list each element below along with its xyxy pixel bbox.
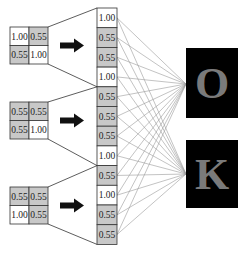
matrix-cell-value: 0.55 xyxy=(11,192,28,202)
connection-line xyxy=(117,84,186,215)
right-arrow-icon xyxy=(60,39,84,53)
flatten-diagram: 1.000.550.551.000.550.550.551.000.550.55… xyxy=(0,0,242,257)
matrix-cell-value: 0.55 xyxy=(30,32,47,42)
connection-line xyxy=(117,174,186,235)
connection-line xyxy=(117,38,186,84)
vector-cell-value: 0.55 xyxy=(99,131,116,141)
connection-line xyxy=(117,18,186,174)
matrix-cell-value: 0.55 xyxy=(30,210,47,220)
output-letter: O xyxy=(195,59,229,108)
connection-line xyxy=(117,57,186,174)
connection-line xyxy=(117,38,186,174)
flattened-vector: 1.000.550.551.000.550.550.551.000.551.00… xyxy=(97,8,117,244)
right-arrow-icon xyxy=(60,199,84,213)
vector-cell-value: 0.55 xyxy=(99,210,116,220)
funnel-line-bottom xyxy=(48,64,97,87)
connection-line xyxy=(117,136,186,174)
vector-cell-value: 0.55 xyxy=(99,33,116,43)
funnel-line-top xyxy=(48,8,97,27)
vector-cell-value: 0.55 xyxy=(99,230,116,240)
connection-line xyxy=(117,84,186,195)
vector-cell-value: 0.55 xyxy=(99,171,116,181)
funnel-line-top xyxy=(48,166,97,187)
connection-line xyxy=(117,174,186,175)
connection-line xyxy=(117,97,186,174)
connection-line xyxy=(117,77,186,84)
matrix-cell-value: 1.00 xyxy=(11,32,28,42)
matrix-cell-value: 0.55 xyxy=(30,192,47,202)
connection-line xyxy=(117,18,186,84)
output-node-k: K xyxy=(186,140,238,208)
output-nodes: OK xyxy=(186,48,238,208)
arrow-icons xyxy=(60,39,84,213)
vector-cell-value: 1.00 xyxy=(99,151,116,161)
right-arrow-icon xyxy=(60,114,84,128)
matrix-cell-value: 0.55 xyxy=(11,107,28,117)
vector-cell-value: 0.55 xyxy=(99,112,116,122)
matrix-cell-value: 0.55 xyxy=(30,107,47,117)
connection-line xyxy=(117,156,186,174)
funnel-line-bottom xyxy=(48,224,97,244)
input-matrix-2: 0.550.550.551.00 xyxy=(10,102,48,139)
matrix-cell-value: 1.00 xyxy=(30,50,47,60)
vector-cell-value: 0.55 xyxy=(99,92,116,102)
connection-line xyxy=(117,84,186,175)
output-node-o: O xyxy=(186,48,238,118)
output-letter: K xyxy=(195,150,229,199)
connection-line xyxy=(117,174,186,215)
fully-connected-lines xyxy=(117,18,186,235)
connection-line xyxy=(117,174,186,195)
vector-cell-value: 1.00 xyxy=(99,190,116,200)
funnel-line-top xyxy=(48,87,97,102)
funnel-line-bottom xyxy=(48,139,97,166)
connection-line xyxy=(117,57,186,84)
vector-cell-value: 1.00 xyxy=(99,72,116,82)
matrix-cell-value: 0.55 xyxy=(11,125,28,135)
matrix-cell-value: 0.55 xyxy=(11,50,28,60)
input-matrices: 1.000.550.551.000.550.550.551.000.550.55… xyxy=(10,27,48,224)
vector-cell-value: 1.00 xyxy=(99,13,116,23)
input-matrix-3: 0.550.551.000.55 xyxy=(10,187,48,224)
input-matrix-1: 1.000.550.551.00 xyxy=(10,27,48,64)
matrix-cell-value: 1.00 xyxy=(30,125,47,135)
matrix-cell-value: 1.00 xyxy=(11,210,28,220)
vector-cell-value: 0.55 xyxy=(99,53,116,63)
